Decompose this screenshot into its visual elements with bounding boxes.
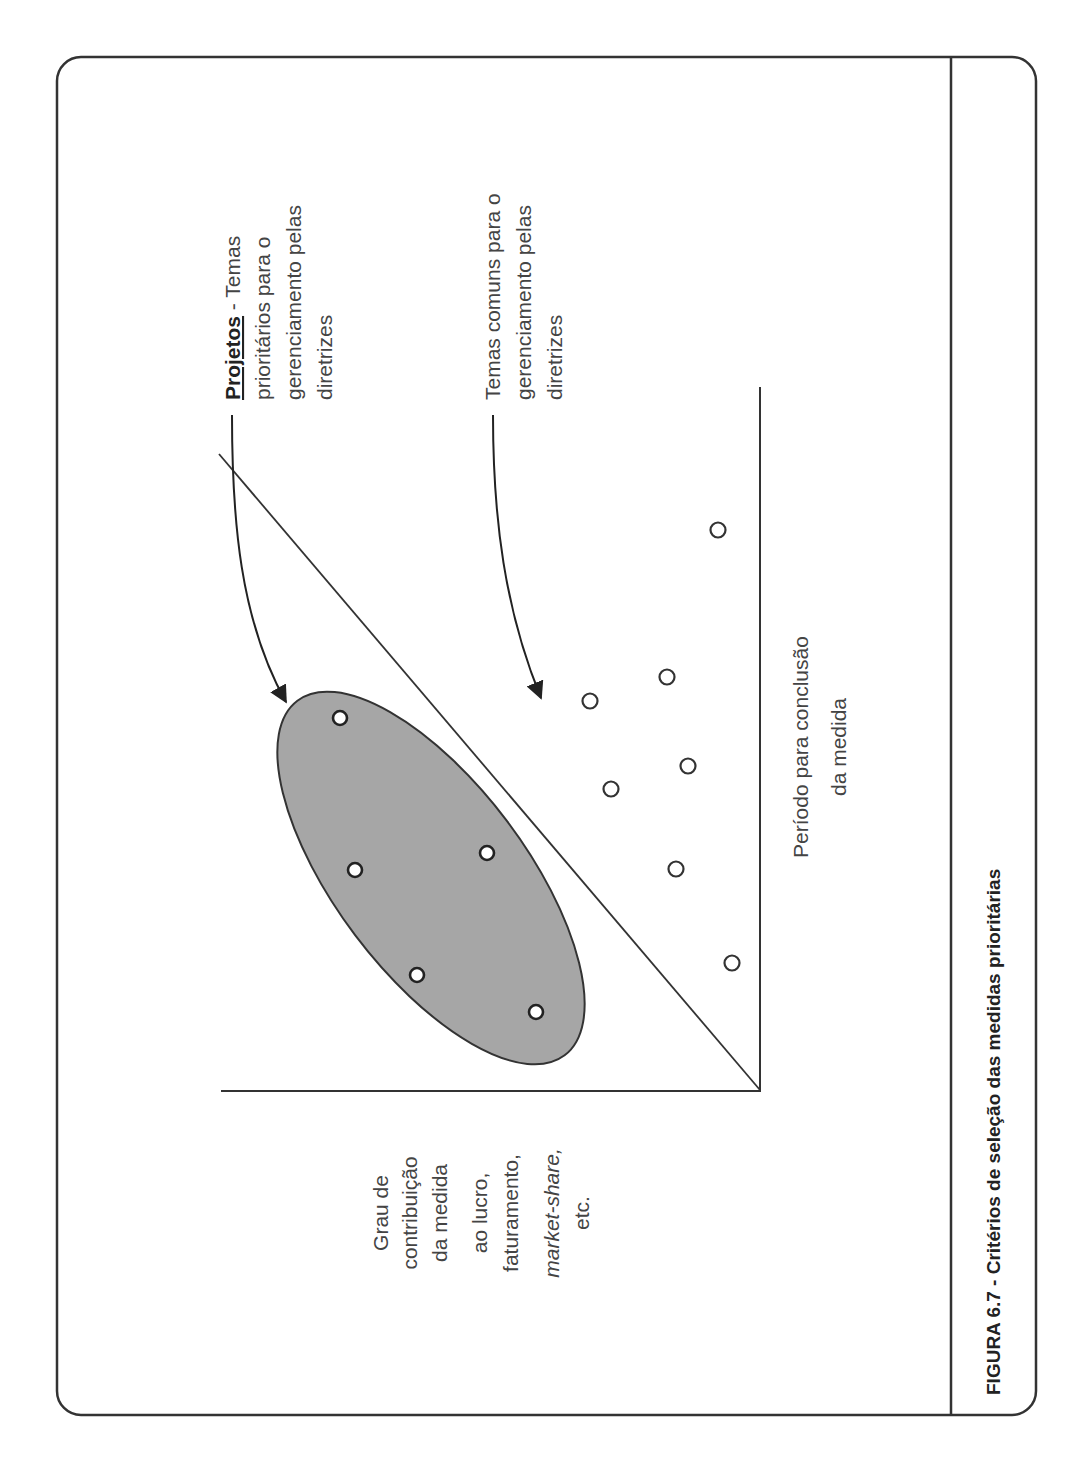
svg-text:Período para conclusão: Período para conclusão <box>789 636 812 858</box>
projects-title: Projetos <box>221 316 244 400</box>
svg-text:da medida: da medida <box>827 698 850 796</box>
data-point <box>529 1005 543 1019</box>
projects-arrow-icon <box>232 415 286 702</box>
common-themes-line: gerenciamento pelas <box>512 205 535 400</box>
data-point <box>583 694 598 709</box>
common-points <box>583 523 740 971</box>
projects-annotation: Projetos - Temas prioritários para o ger… <box>221 205 336 400</box>
data-point <box>711 523 726 538</box>
common-themes-annotation: Temas comuns para o gerenciamento pelas … <box>481 193 566 400</box>
priority-projects-ellipse <box>222 644 641 1113</box>
svg-text:etc.: etc. <box>570 1196 593 1230</box>
x-axis-label: Período para conclusão da medida <box>789 636 850 858</box>
common-themes-line: diretrizes <box>543 315 566 400</box>
data-point <box>681 759 696 774</box>
data-point <box>480 846 494 860</box>
data-point <box>410 968 424 982</box>
svg-text:market-share,: market-share, <box>540 1148 563 1278</box>
figure-canvas: Projetos - Temas prioritários para o ger… <box>0 0 1085 1472</box>
projects-line: gerenciamento pelas <box>282 205 305 400</box>
common-themes-arrow-icon <box>493 415 541 698</box>
data-point <box>725 956 740 971</box>
data-point <box>669 862 684 877</box>
svg-text:ao lucro,: ao lucro, <box>468 1173 491 1254</box>
data-point <box>660 670 675 685</box>
projects-line: diretrizes <box>313 315 336 400</box>
figure-caption: FIGURA 6.7 - Critérios de seleção das me… <box>983 869 1004 1395</box>
svg-text:Grau de: Grau de <box>369 1175 392 1251</box>
svg-text:faturamento,: faturamento, <box>499 1154 522 1272</box>
y-axis-label: Grau de contribuição da medida ao lucro,… <box>369 1148 593 1278</box>
data-point <box>348 863 362 877</box>
common-themes-line: Temas comuns para o <box>481 193 504 400</box>
svg-text:da medida: da medida <box>428 1164 451 1262</box>
data-point <box>604 782 619 797</box>
data-point <box>333 711 347 725</box>
svg-text:contribuição: contribuição <box>398 1156 421 1269</box>
svg-text:Projetos - Temas: Projetos - Temas <box>221 236 244 400</box>
projects-line: prioritários para o <box>251 237 274 400</box>
